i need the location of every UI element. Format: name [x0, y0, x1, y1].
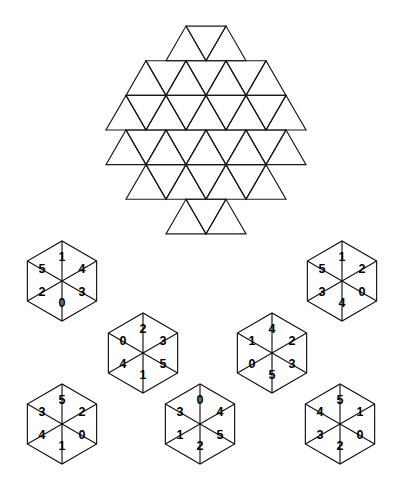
piece-cell-value: 0 [59, 296, 66, 310]
hexagon-piece-bottom-right[interactable]: 510234 [305, 384, 374, 464]
board-triangle-down[interactable] [166, 130, 206, 165]
hexagon-piece-middle-left[interactable]: 235140 [108, 313, 177, 393]
board-triangle-up[interactable] [126, 61, 166, 96]
puzzle-canvas: 1430251204352351404235015201430452135102… [0, 0, 404, 496]
board-triangle-down[interactable] [146, 61, 186, 96]
piece-cell-value: 3 [289, 357, 296, 371]
piece-cell-value: 4 [217, 405, 224, 419]
board-triangle-up[interactable] [166, 165, 206, 200]
piece-cell-value: 2 [289, 334, 296, 348]
piece-cell-value: 5 [217, 428, 224, 442]
piece-cell-value: 1 [248, 334, 255, 348]
piece-cell-value: 2 [79, 405, 86, 419]
board-triangle-down[interactable] [246, 130, 286, 165]
board-triangle-up[interactable] [166, 26, 206, 61]
board-triangle-up[interactable] [166, 61, 206, 96]
board-triangle-down[interactable] [166, 95, 206, 130]
board-triangle-up[interactable] [206, 165, 246, 200]
piece-cell-value: 1 [140, 368, 147, 382]
board-triangle-down[interactable] [206, 95, 246, 130]
piece-cell-value: 3 [316, 428, 323, 442]
board-triangle-up[interactable] [206, 199, 246, 234]
piece-cell-value: 5 [38, 262, 45, 276]
piece-cell-value: 5 [318, 262, 325, 276]
piece-cell-value: 1 [339, 250, 346, 264]
piece-cell-value: 4 [316, 405, 323, 419]
board-triangle-up[interactable] [186, 95, 226, 130]
piece-cell-value: 4 [38, 428, 45, 442]
piece-cell-value: 0 [119, 334, 126, 348]
board-triangle-down[interactable] [226, 165, 266, 200]
board-triangle-up[interactable] [206, 26, 246, 61]
board-triangle-down[interactable] [186, 26, 226, 61]
piece-cell-value: 2 [140, 322, 147, 336]
board-triangle-down[interactable] [126, 130, 166, 165]
board-triangle-down[interactable] [246, 95, 286, 130]
piece-cell-value: 0 [248, 357, 255, 371]
piece-cell-value: 1 [176, 428, 183, 442]
puzzle-svg: 1430251204352351404235015201430452135102… [0, 0, 404, 496]
piece-cell-value: 4 [269, 322, 276, 336]
piece-cell-value: 3 [38, 405, 45, 419]
board-group [106, 26, 306, 234]
piece-cell-value: 3 [79, 285, 86, 299]
piece-cell-value: 1 [59, 250, 66, 264]
piece-cell-value: 0 [357, 428, 364, 442]
board-triangle-up[interactable] [146, 130, 186, 165]
board-triangle-down[interactable] [186, 165, 226, 200]
board-triangle-up[interactable] [266, 95, 306, 130]
piece-cell-value: 1 [59, 439, 66, 453]
board-triangle-up[interactable] [206, 61, 246, 96]
board-triangle-down[interactable] [146, 165, 186, 200]
piece-cell-value: 3 [176, 405, 183, 419]
hexagon-piece-middle-right[interactable]: 423501 [237, 313, 306, 393]
piece-cell-value: 2 [337, 439, 344, 453]
board-triangle-up[interactable] [246, 165, 286, 200]
board-triangle-up[interactable] [226, 95, 266, 130]
hexagon-piece-bottom-left[interactable]: 520143 [27, 384, 96, 464]
board-triangle-down[interactable] [186, 199, 226, 234]
piece-cell-value: 4 [339, 296, 346, 310]
board-triangle-up[interactable] [106, 95, 146, 130]
hexagon-piece-top-left[interactable]: 143025 [27, 241, 96, 321]
piece-cell-value: 1 [357, 405, 364, 419]
hexagon-piece-top-right[interactable]: 120435 [307, 241, 376, 321]
board-triangle-up[interactable] [106, 130, 146, 165]
piece-cell-value: 4 [79, 262, 86, 276]
board-triangle-down[interactable] [186, 61, 226, 96]
board-triangle-up[interactable] [246, 61, 286, 96]
piece-cell-value: 5 [160, 357, 167, 371]
piece-cell-value: 5 [269, 368, 276, 382]
board-triangle-down[interactable] [206, 130, 246, 165]
piece-cell-value: 0 [197, 393, 204, 407]
board-triangle-up[interactable] [126, 165, 166, 200]
piece-cell-value: 0 [359, 285, 366, 299]
board-triangle-up[interactable] [186, 130, 226, 165]
board-triangle-up[interactable] [146, 95, 186, 130]
piece-cell-value: 3 [318, 285, 325, 299]
piece-cell-value: 0 [79, 428, 86, 442]
piece-cell-value: 2 [197, 439, 204, 453]
board-triangle-down[interactable] [126, 95, 166, 130]
piece-cell-value: 5 [59, 393, 66, 407]
piece-cell-value: 2 [38, 285, 45, 299]
piece-cell-value: 3 [160, 334, 167, 348]
board-triangle-down[interactable] [226, 61, 266, 96]
piece-cell-value: 4 [119, 357, 126, 371]
board-triangle-up[interactable] [266, 130, 306, 165]
board-triangle-up[interactable] [226, 130, 266, 165]
hexagon-piece-bottom-middle[interactable]: 045213 [165, 384, 234, 464]
board-triangle-up[interactable] [166, 199, 206, 234]
piece-cell-value: 5 [337, 393, 344, 407]
piece-cell-value: 2 [359, 262, 366, 276]
